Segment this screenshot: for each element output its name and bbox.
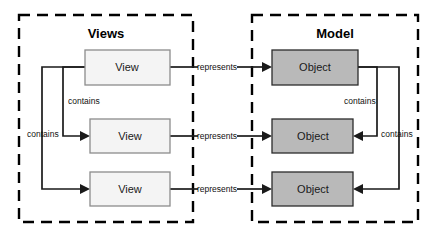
contains-label-inner-right: contains	[344, 96, 376, 106]
contains-arrowhead-outer-right	[353, 184, 363, 194]
object-node-1[interactable]: Object	[272, 50, 358, 85]
view-node-1[interactable]: View	[85, 50, 170, 85]
contains-label-outer-right: contains	[381, 129, 413, 139]
object-node-2-label: Object	[297, 130, 329, 142]
represents-label-3: represents	[197, 184, 237, 194]
contains-arrowhead-inner-left	[80, 131, 90, 141]
represents-arrowhead-2	[262, 131, 272, 141]
represents-label-1: represents	[197, 62, 237, 72]
view-node-3-label: View	[118, 183, 142, 195]
diagram-canvas: Views Model contains contains contains c…	[0, 0, 435, 239]
object-node-1-label: Object	[299, 61, 331, 73]
represents-arrowhead-1	[262, 62, 272, 72]
contains-arrowhead-outer-left	[80, 184, 90, 194]
model-title: Model	[316, 26, 354, 41]
object-node-3-label: Object	[297, 183, 329, 195]
views-title: Views	[88, 26, 125, 41]
view-node-3[interactable]: View	[90, 172, 170, 206]
view-node-2-label: View	[118, 130, 142, 142]
contains-label-outer-left: contains	[27, 129, 59, 139]
object-node-3[interactable]: Object	[272, 172, 353, 206]
contains-connector-outer-right	[358, 67, 399, 189]
contains-label-inner-left: contains	[68, 96, 100, 106]
contains-arrowhead-inner-right	[353, 131, 363, 141]
view-node-1-label: View	[115, 61, 139, 73]
view-node-2[interactable]: View	[90, 119, 170, 153]
object-node-2[interactable]: Object	[272, 119, 353, 153]
mvc-diagram: Views Model contains contains contains c…	[0, 0, 435, 239]
represents-label-2: represents	[197, 131, 237, 141]
represents-arrowhead-3	[262, 184, 272, 194]
